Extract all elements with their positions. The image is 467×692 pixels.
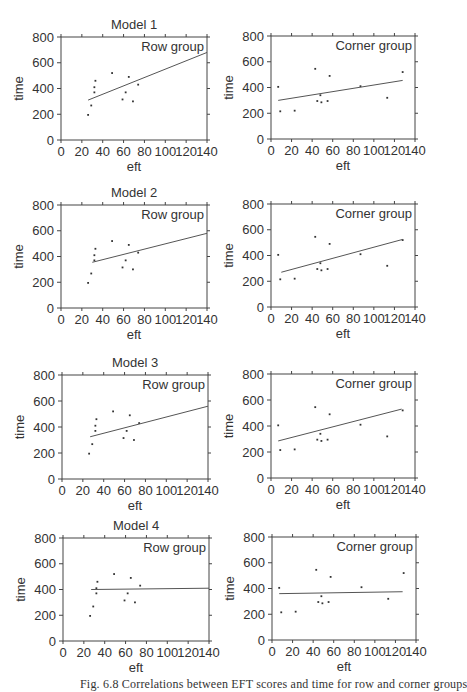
data-point (321, 101, 323, 103)
data-point (137, 84, 139, 86)
x-tick-label: 0 (267, 482, 274, 497)
data-point (280, 611, 282, 613)
data-point (279, 449, 281, 451)
x-tick-label: 120 (176, 483, 198, 498)
y-tick-label: 800 (33, 368, 55, 383)
x-tick-label: 80 (346, 482, 360, 497)
data-point (322, 602, 324, 604)
data-point (93, 259, 95, 261)
x-axis-label: eft (336, 497, 351, 512)
data-point (277, 254, 279, 256)
y-tick-label: 400 (242, 248, 264, 263)
data-point (317, 601, 319, 603)
regression-line (278, 409, 401, 441)
y-tick-label: 0 (48, 472, 55, 487)
data-point (90, 273, 92, 275)
data-point (279, 110, 281, 112)
data-point (89, 615, 91, 617)
x-tick-label: 140 (404, 311, 426, 326)
x-tick-label: 0 (57, 312, 64, 327)
x-tick-label: 40 (306, 644, 320, 659)
x-tick-label: 20 (284, 143, 298, 158)
data-point (295, 611, 297, 613)
x-tick-label: 120 (385, 644, 407, 659)
data-point (329, 75, 331, 77)
data-point (139, 585, 141, 587)
x-axis-label: eft (127, 159, 142, 174)
x-tick-label: 100 (363, 311, 385, 326)
data-point (123, 437, 125, 439)
data-point (94, 430, 96, 432)
x-tick-label: 120 (175, 312, 197, 327)
data-point (327, 100, 329, 102)
x-tick-label: 0 (58, 483, 65, 498)
y-tick-label: 0 (47, 301, 54, 316)
y-tick-label: 400 (32, 81, 54, 96)
x-tick-label: 80 (137, 144, 151, 159)
x-tick-label: 80 (137, 312, 151, 327)
x-tick-label: 120 (177, 645, 199, 660)
data-point (278, 587, 280, 589)
y-tick-label: 0 (258, 633, 265, 648)
data-point (134, 601, 136, 603)
y-tick-label: 200 (34, 608, 56, 623)
data-point (124, 600, 126, 602)
data-point (97, 581, 99, 583)
data-point (329, 243, 331, 245)
y-tick-label: 600 (34, 556, 56, 571)
y-tick-label: 200 (242, 106, 264, 121)
x-axis-label: eft (336, 326, 351, 341)
y-tick-label: 400 (242, 80, 264, 95)
data-point (92, 606, 94, 608)
y-axis-label: time (221, 414, 236, 439)
x-tick-label: 20 (75, 144, 89, 159)
group-label: Corner group (335, 206, 412, 221)
y-tick-label: 600 (242, 54, 264, 69)
x-tick-label: 60 (325, 482, 339, 497)
data-point (386, 436, 388, 438)
x-tick-label: 20 (284, 311, 298, 326)
panel-title: Model 4 (113, 518, 159, 533)
data-point (279, 278, 281, 280)
data-point (112, 411, 114, 413)
data-point (403, 572, 405, 574)
y-tick-label: 0 (257, 300, 264, 315)
regression-line (88, 52, 207, 100)
data-point (93, 254, 95, 256)
y-tick-label: 600 (242, 222, 264, 237)
group-label: Row group (141, 207, 204, 222)
y-axis-label: time (13, 577, 28, 602)
y-tick-label: 600 (32, 55, 54, 70)
regression-line (92, 233, 207, 262)
data-point (402, 71, 404, 73)
data-point (402, 410, 404, 412)
x-tick-label: 60 (325, 311, 339, 326)
x-axis-label: eft (128, 498, 143, 513)
scatter-panel-3: Model 20204060801001201400200400600800ef… (11, 185, 218, 342)
x-axis-label: eft (129, 660, 144, 675)
y-tick-label: 400 (34, 582, 56, 597)
data-point (321, 269, 323, 271)
data-point (93, 86, 95, 88)
y-tick-label: 800 (242, 367, 264, 382)
data-point (129, 414, 131, 416)
scatter-panel-8: 0204060801001201400200400600800efttimeCo… (222, 530, 427, 675)
y-tick-label: 800 (243, 530, 265, 545)
x-tick-label: 0 (59, 645, 66, 660)
x-tick-label: 40 (95, 312, 109, 327)
data-point (316, 268, 318, 270)
data-point (90, 105, 92, 107)
data-point (93, 91, 95, 93)
x-tick-label: 40 (95, 144, 109, 159)
figure-caption: Fig. 6.8 Correlations between EFT scores… (80, 677, 467, 692)
data-point (88, 453, 90, 455)
data-point (95, 248, 97, 250)
x-tick-label: 100 (364, 644, 386, 659)
x-axis-label: eft (127, 327, 142, 342)
data-point (361, 586, 363, 588)
group-label: Corner group (335, 38, 412, 53)
panel-title: Model 2 (111, 185, 157, 200)
y-tick-label: 400 (243, 581, 265, 596)
data-point (127, 592, 129, 594)
